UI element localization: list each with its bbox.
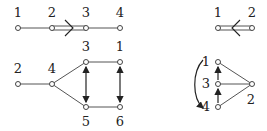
edge-4-3: [52, 62, 86, 84]
node-6: [118, 105, 123, 110]
node-label: 2: [14, 61, 22, 76]
node-label: 5: [82, 114, 90, 129]
node-label: 2: [48, 5, 56, 20]
node-label: 3: [202, 76, 210, 91]
node-label: 4: [116, 5, 124, 20]
chevron-right-icon: [65, 20, 73, 36]
node-label: 6: [116, 114, 124, 129]
node-1: [118, 60, 123, 65]
node-4: [50, 82, 55, 87]
node-label: 2: [247, 92, 255, 107]
node-1: [216, 60, 221, 65]
node-1: [216, 26, 221, 31]
node-2: [250, 26, 255, 31]
edge-4-5: [52, 84, 86, 107]
node-2: [50, 26, 55, 31]
node-label: 2: [248, 5, 256, 20]
node-5: [84, 105, 89, 110]
chevron-left-icon: [232, 20, 240, 36]
node-label: 1: [116, 39, 124, 54]
node-3: [84, 60, 89, 65]
node-label: 1: [14, 5, 22, 20]
node-1: [16, 26, 21, 31]
edge-1-2: [218, 62, 252, 84]
node-2: [16, 82, 21, 87]
node-4: [118, 26, 123, 31]
node-3: [216, 82, 221, 87]
diagram-canvas: 1 2 3 4 2 4 3 1 5 6 1 2: [0, 0, 267, 131]
bottom-right-graph: 1 3 4 2: [195, 54, 255, 114]
top-right-pair: 1 2: [214, 5, 256, 36]
node-3: [84, 26, 89, 31]
node-label: 1: [214, 5, 222, 20]
node-4: [216, 105, 221, 110]
top-left-path: 1 2 3 4: [14, 5, 124, 36]
node-label: 3: [82, 5, 90, 20]
double-edge-2-3: [52, 20, 86, 36]
node-label: 1: [202, 54, 210, 69]
node-label: 4: [202, 99, 210, 114]
node-label: 3: [82, 39, 90, 54]
node-label: 4: [48, 61, 56, 76]
node-2: [250, 82, 255, 87]
bottom-left-graph: 2 4 3 1 5 6: [14, 39, 124, 129]
double-edge-1-2: [218, 20, 252, 36]
